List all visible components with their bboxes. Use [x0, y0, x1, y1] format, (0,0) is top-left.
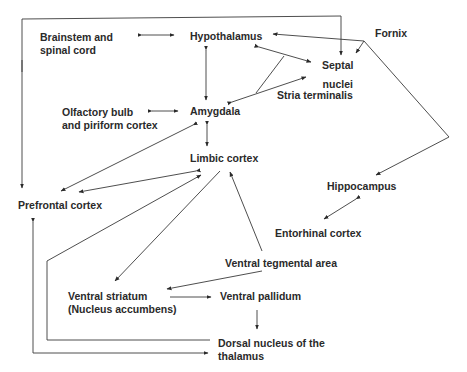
node-brainstem: Brainstem and spinal cord	[40, 31, 113, 57]
edge-limbic-prefrontal	[79, 171, 196, 192]
edge-vta-limbic	[230, 172, 262, 251]
node-ventral-tegmental-area: Ventral tegmental area	[225, 257, 337, 270]
edge-prefrontal-thalamus	[33, 222, 208, 353]
node-prefrontal-cortex: Prefrontal cortex	[18, 199, 102, 212]
node-hypothalamus: Hypothalamus	[190, 30, 262, 43]
node-limbic-cortex: Limbic cortex	[190, 152, 258, 165]
edge-amygdala-prefrontal	[61, 125, 193, 191]
edge-fornix-hypothalamus	[273, 34, 364, 41]
edge-stria-junction	[256, 56, 284, 93]
node-olfactory-bulb: Olfactory bulb and piriform cortex	[62, 106, 158, 132]
edge-vta-striatum	[167, 271, 262, 289]
edge-limbic-striatum	[115, 171, 220, 281]
edge-stria-hypothalamus-septal	[259, 47, 311, 62]
limbic-circuit-diagram: Brainstem and spinal cord Hypothalamus F…	[0, 0, 467, 372]
edge-hippocampus-entorhinal	[324, 199, 356, 219]
edge-fornix-septal	[356, 41, 364, 53]
node-amygdala: Amygdala	[190, 105, 240, 118]
node-dorsal-nucleus-thalamus: Dorsal nucleus of the thalamus	[218, 337, 325, 363]
node-ventral-pallidum: Ventral pallidum	[220, 290, 301, 303]
node-stria-terminalis: Stria terminalis	[277, 89, 353, 102]
node-fornix: Fornix	[375, 27, 407, 40]
node-ventral-striatum: Ventral striatum (Nucleus accumbens)	[68, 290, 177, 316]
node-entorhinal-cortex: Entorhinal cortex	[275, 227, 361, 240]
node-hippocampus: Hippocampus	[327, 180, 396, 193]
edge-fornix-hippocampus	[364, 41, 449, 175]
